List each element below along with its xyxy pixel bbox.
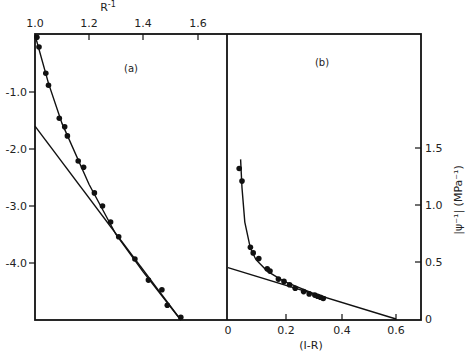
svg-text:1.6: 1.6 — [189, 17, 207, 30]
panel-b-x-tick-labels: 0 0.2 0.4 0.6 — [225, 324, 405, 337]
panel-b-y-tick-labels: 0 0.5 1.0 1.5 — [425, 142, 443, 326]
extrapolation-line — [228, 268, 396, 319]
panel-b-ticks — [286, 148, 421, 320]
panel-b-y-axis-title: |ψ⁻¹| (MPa⁻¹) — [452, 165, 465, 235]
svg-text:0.2: 0.2 — [277, 324, 295, 337]
panel-a-label: (a) — [124, 63, 138, 74]
panel-a-x-axis-title: R-1 — [100, 0, 116, 14]
data-series — [34, 35, 396, 321]
plot-frame — [35, 34, 421, 320]
panel-b-x-axis-title: (I-R) — [299, 339, 322, 352]
svg-text:0: 0 — [425, 313, 432, 326]
svg-text:1.0: 1.0 — [425, 199, 443, 212]
svg-text:1.5: 1.5 — [425, 142, 443, 155]
svg-text:1.2: 1.2 — [80, 17, 98, 30]
svg-text:-1.0: -1.0 — [6, 86, 27, 99]
svg-text:-2.0: -2.0 — [6, 143, 27, 156]
svg-text:1.4: 1.4 — [134, 17, 152, 30]
svg-text:0: 0 — [225, 324, 232, 337]
extrapolation-line — [35, 126, 181, 320]
panel-a-y-tick-labels: -1.0 -2.0 -3.0 -4.0 — [6, 86, 27, 270]
panel-a-x-tick-labels: 1.0 1.2 1.4 1.6 — [26, 17, 207, 30]
panel-b-label: (b) — [315, 57, 329, 68]
svg-text:0.4: 0.4 — [333, 324, 351, 337]
svg-text:1.0: 1.0 — [26, 17, 44, 30]
svg-text:0.5: 0.5 — [425, 256, 443, 269]
fitted-curve — [241, 159, 326, 297]
svg-text:-4.0: -4.0 — [6, 257, 27, 270]
svg-text:-3.0: -3.0 — [6, 200, 27, 213]
fitted-curve — [35, 35, 181, 320]
chart-figure: 1.0 1.2 1.4 1.6 R-1 -1.0 -2.0 -3.0 -4.0 … — [0, 0, 474, 358]
svg-text:0.6: 0.6 — [387, 324, 405, 337]
